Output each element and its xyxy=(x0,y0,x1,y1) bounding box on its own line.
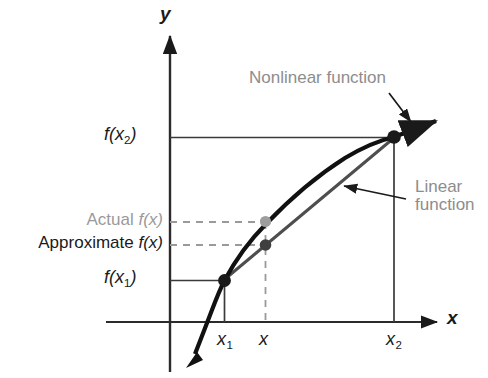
linear-function-callout: Linear function xyxy=(415,178,475,215)
fx1-subscript: 1 xyxy=(124,277,130,289)
linear-function-line-2: function xyxy=(415,196,475,214)
tick-x1-subscript: 1 xyxy=(227,339,233,351)
approximate-fx-text: f(x) xyxy=(138,233,163,252)
actual-fx-text: f(x) xyxy=(138,210,163,229)
figure-canvas: y x f(x2) f(x1) Actual f(x) Approximate … xyxy=(0,0,488,378)
value-label-fx2: f(x2) xyxy=(104,125,136,144)
secant-line xyxy=(222,137,395,282)
tick-x2-subscript: 2 xyxy=(396,339,402,351)
actual-prefix-text: Actual xyxy=(86,210,138,229)
linear-function-curve xyxy=(222,137,395,282)
point-actual-fx xyxy=(260,216,271,227)
tick-label-x: x xyxy=(259,330,268,349)
tick-label-x1: x1 xyxy=(217,330,232,349)
point-approximate-fx xyxy=(260,239,272,251)
fx2-paren: ) xyxy=(130,124,136,144)
linear-function-line-1: Linear xyxy=(415,178,475,196)
y-axis-label: y xyxy=(160,4,171,25)
x-axis-label: x xyxy=(447,308,458,329)
nonlinear-function-callout: Nonlinear function xyxy=(249,69,386,87)
fx2-subscript: 2 xyxy=(124,134,130,146)
tick-label-x2: x2 xyxy=(386,330,401,349)
fx2-text: f(x xyxy=(104,124,124,144)
approximate-prefix-text: Approximate xyxy=(38,233,138,252)
tick-x1-text: x xyxy=(217,329,226,349)
fx1-text: f(x xyxy=(104,267,124,287)
nonlinear-callout-leader xyxy=(389,93,411,122)
approximate-fx-label: Approximate f(x) xyxy=(0,234,163,252)
linear-callout-leader xyxy=(344,186,406,199)
nonlinear-curve-lower-arrowhead xyxy=(186,352,203,368)
point-x2-fx2 xyxy=(387,130,401,144)
nonlinear-curve-path xyxy=(195,121,436,354)
callout-leaders xyxy=(344,93,411,199)
actual-fx-label: Actual f(x) xyxy=(0,211,163,229)
value-label-fx1: f(x1) xyxy=(104,268,136,287)
tick-x2-text: x xyxy=(386,329,395,349)
point-x1-fx1 xyxy=(218,274,231,287)
fx1-paren: ) xyxy=(130,267,136,287)
